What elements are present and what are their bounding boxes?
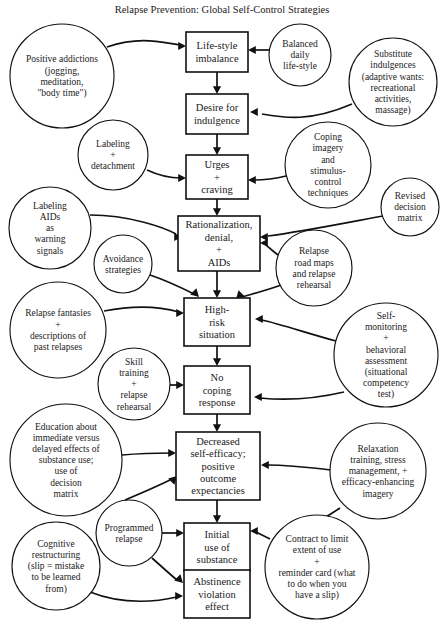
node-labeling-aids-warning-signals-line-0: Labeling xyxy=(33,201,67,211)
edge-line xyxy=(152,558,177,580)
node-cognitive-restructuring-line-0: Cognitive xyxy=(37,539,74,549)
node-urges-craving-line-2: craving xyxy=(201,184,233,195)
node-positive-addictions-line-2: meditation, xyxy=(40,77,83,87)
node-relaxation-training[interactable]: Relaxationtraining, stressmanagement, +e… xyxy=(330,423,426,519)
node-education-immediate-delayed-line-0: Education about xyxy=(35,422,97,432)
node-high-risk-situation-line-2: situation xyxy=(199,329,236,340)
edge-e-programmed-relapse-to-abstinence xyxy=(152,558,183,583)
node-avoidance-strategies-line-0: Avoidance xyxy=(103,254,143,264)
node-relapse-fantasies[interactable]: Relapse fantasies+descriptions ofpast re… xyxy=(10,282,106,378)
arrow-head xyxy=(168,449,176,457)
node-abstinence-violation-effect-line-0: Abstinence xyxy=(193,576,241,587)
node-labeling-aids-warning-signals[interactable]: LabelingAIDsaswarningsignals xyxy=(9,187,91,269)
node-initial-use-of-substance[interactable]: Initialuse ofsubstance xyxy=(184,523,250,571)
node-decreased-self-efficacy-line-2: positive xyxy=(201,461,235,472)
node-initial-use-of-substance-line-1: use of xyxy=(204,542,230,553)
node-education-immediate-delayed-line-6: matrix xyxy=(54,489,79,499)
edge-line xyxy=(90,592,177,601)
node-relapse-road-maps-line-2: and relapse xyxy=(293,269,336,279)
node-programmed-relapse-line-0: Programmed xyxy=(104,523,153,533)
node-urges-craving-line-0: Urges xyxy=(205,159,230,170)
node-no-coping-response-line-2: response xyxy=(199,397,236,408)
node-desire-for-indulgence-line-0: Desire for xyxy=(196,102,239,113)
node-contract-to-limit-line-5: have a slip) xyxy=(295,590,339,601)
node-substitute-indulgences[interactable]: Substituteindulgences(adaptive wants:rec… xyxy=(349,38,437,126)
diagram-page: Positive addictions(jogging,meditation,"… xyxy=(0,0,440,624)
node-lifestyle-imbalance[interactable]: Life-styleimbalance xyxy=(186,32,248,72)
node-avoidance-strategies-label: Avoidancestrategies xyxy=(103,254,143,275)
node-relaxation-training-line-2: management, + xyxy=(349,466,408,476)
node-positive-addictions[interactable]: Positive addictions(jogging,meditation,"… xyxy=(10,24,114,128)
node-contract-to-limit-line-0: Contract to limit xyxy=(286,534,349,544)
node-high-risk-situation[interactable]: High-risksituation xyxy=(184,298,250,346)
node-substitute-indulgences-line-5: massage) xyxy=(375,105,410,116)
arrow-head xyxy=(261,461,269,469)
node-urges-craving[interactable]: Urges+craving xyxy=(186,155,248,199)
edge-line xyxy=(122,453,171,455)
arrow-head xyxy=(250,108,258,116)
edge-line xyxy=(147,170,181,178)
node-relapse-fantasies-line-2: descriptions of xyxy=(30,331,87,341)
node-abstinence-violation-effect[interactable]: Abstinenceviolationeffect xyxy=(184,570,250,618)
node-avoidance-strategies[interactable]: Avoidancestrategies xyxy=(94,235,152,293)
node-balanced-daily-lifestyle[interactable]: Balanceddailylife-style xyxy=(269,24,331,86)
node-coping-imagery[interactable]: Copingimageryandstimulus-controltechniqu… xyxy=(285,122,371,208)
node-desire-for-indulgence[interactable]: Desire forindulgence xyxy=(186,94,248,134)
arrow-head xyxy=(255,315,263,323)
node-labeling-detachment-line-2: detachment xyxy=(91,161,135,171)
node-cognitive-restructuring[interactable]: Cognitiverestructuring(slip = mistaketo … xyxy=(12,522,100,610)
node-relapse-road-maps-line-3: rehearsal xyxy=(297,280,332,290)
edge-e-lifestyle-to-desire xyxy=(213,72,221,94)
node-skill-training-relapse-rehearsal-line-1: training xyxy=(119,368,149,378)
node-positive-addictions-line-3: "body time") xyxy=(37,88,86,99)
node-labeling-aids-warning-signals-line-4: signals xyxy=(37,246,64,256)
node-lifestyle-imbalance-line-1: imbalance xyxy=(195,53,238,64)
node-substitute-indulgences-line-0: Substitute xyxy=(374,49,412,59)
node-cognitive-restructuring-line-4: from) xyxy=(45,584,67,595)
node-skill-training-relapse-rehearsal-line-3: relapse xyxy=(121,390,148,400)
edge-line xyxy=(150,275,194,294)
node-rationalization-denial-aids-line-0: Rationalization, xyxy=(186,219,253,230)
node-relapse-road-maps[interactable]: Relapseroad mapsand relapserehearsal xyxy=(276,230,352,306)
edge-e-relapse-roadmaps-to-rationalization xyxy=(260,239,278,255)
node-labeling-detachment[interactable]: Labeling+detachment xyxy=(78,120,148,190)
arrow-head xyxy=(213,290,221,298)
edge-e-contract-to-initial xyxy=(250,527,270,539)
node-skill-training-relapse-rehearsal[interactable]: Skilltraining+relapserehearsal xyxy=(98,348,170,420)
node-relapse-fantasies-label: Relapse fantasies+descriptions ofpast re… xyxy=(25,308,91,352)
node-revised-decision-matrix[interactable]: Reviseddecisionmatrix xyxy=(381,178,439,236)
diagram-title: Relapse Prevention: Global Self-Control … xyxy=(115,4,330,15)
node-no-coping-response[interactable]: Nocopingresponse xyxy=(184,366,250,414)
node-education-immediate-delayed-line-5: decision xyxy=(50,478,82,488)
node-education-immediate-delayed[interactable]: Education aboutimmediate versusdelayed e… xyxy=(10,404,122,516)
node-desire-for-indulgence-line-1: indulgence xyxy=(194,115,240,126)
node-rationalization-denial-aids[interactable]: Rationalization,denial,+AIDs xyxy=(178,216,260,271)
node-rationalization-denial-aids-line-3: AIDs xyxy=(208,257,231,268)
node-contract-to-limit-line-3: reminder card (what xyxy=(278,568,355,579)
node-contract-to-limit-line-2: + xyxy=(314,557,319,567)
node-programmed-relapse[interactable]: Programmedrelapse xyxy=(96,500,162,566)
arrow-head xyxy=(260,239,268,247)
node-self-monitoring-line-7: test) xyxy=(378,389,394,400)
edge-e-balanced-to-lifestyle xyxy=(248,46,270,54)
node-positive-addictions-line-0: Positive addictions xyxy=(26,54,98,64)
node-coping-imagery-line-4: control xyxy=(315,177,342,187)
node-decreased-self-efficacy-line-0: Decreased xyxy=(196,436,240,447)
node-self-monitoring-line-4: assessment xyxy=(365,356,408,366)
node-relapse-road-maps-line-0: Relapse xyxy=(299,246,329,256)
node-lifestyle-imbalance-label: Life-styleimbalance xyxy=(195,40,238,63)
node-avoidance-strategies-line-1: strategies xyxy=(105,265,141,275)
node-contract-to-limit[interactable]: Contract to limitextent of use+reminder … xyxy=(265,515,369,619)
node-skill-training-relapse-rehearsal-line-2: + xyxy=(131,379,136,389)
arrow-head xyxy=(175,592,183,600)
edge-e-desire-to-urges xyxy=(213,134,221,155)
node-decreased-self-efficacy-line-3: outcome xyxy=(200,473,236,484)
node-self-monitoring[interactable]: Self-monitoring+behavioralassessment(sit… xyxy=(334,303,438,407)
node-decreased-self-efficacy[interactable]: Decreasedself-efficacy;positiveoutcomeex… xyxy=(176,432,260,500)
arrow-head xyxy=(250,527,258,535)
node-balanced-daily-lifestyle-line-2: life-style xyxy=(283,61,317,71)
edge-line xyxy=(254,176,286,180)
node-substitute-indulgences-line-1: indulgences xyxy=(370,60,416,70)
node-self-monitoring-line-5: (situational xyxy=(365,367,408,378)
node-labeling-aids-warning-signals-line-3: warning xyxy=(34,234,65,244)
